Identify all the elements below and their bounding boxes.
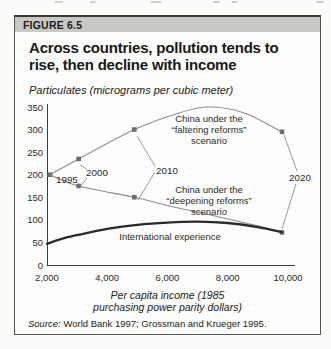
page-crop-artifact: [151, 1, 161, 3]
y-tick-label: 0: [38, 260, 43, 271]
x-tick-label: 2,000: [35, 272, 59, 283]
data-point-marker: [132, 195, 137, 200]
x-axis-label-line2: purchasing power parity dollars): [93, 301, 242, 313]
figure-number: FIGURE 6.5: [23, 19, 82, 31]
y-tick-label: 200: [27, 169, 43, 180]
data-point-marker: [132, 127, 137, 132]
figure-box: FIGURE 6.5 Across countries, pollution t…: [14, 15, 321, 335]
faltering-reforms-label: China under the“faltering reforms”scenar…: [172, 113, 247, 146]
y-tick-label: 250: [27, 147, 43, 158]
year-label-2010: 2010: [156, 165, 178, 176]
year-leader-line: [284, 135, 297, 171]
year-label-2000: 2000: [86, 167, 108, 178]
y-tick-label: 150: [27, 192, 43, 203]
page-crop-artifact: [213, 1, 220, 3]
figure-title-line2: rise, then decline with income: [29, 56, 236, 73]
international-experience-label: International experience: [119, 231, 220, 242]
y-tick-label: 100: [27, 214, 43, 225]
year-leader-line: [282, 184, 296, 229]
figure-subtitle: Particulates (micrograms per cubic meter…: [29, 84, 320, 96]
figure-label-bar: FIGURE 6.5: [15, 17, 320, 32]
page-crop-artifact: [232, 1, 237, 3]
year-label-2020: 2020: [289, 172, 311, 183]
y-tick-label: 300: [27, 124, 43, 135]
year-leader-line: [138, 172, 155, 200]
data-point-marker: [280, 130, 285, 135]
year-leader-line: [137, 136, 155, 166]
x-tick-label: 8,000: [216, 272, 240, 283]
source-text: World Bank 1997; Grossman and Krueger 19…: [63, 318, 266, 329]
y-tick-label: 350: [27, 102, 43, 113]
year-leader-line: [80, 178, 87, 187]
page-crop-artifact: [55, 1, 63, 3]
pollution-income-chart: 0501001502002503003502,0004,0006,0008,00…: [15, 96, 320, 286]
x-tick-label: 10,000: [273, 272, 302, 283]
source-note: Source: World Bank 1997; Grossman and Kr…: [28, 318, 267, 329]
x-tick-label: 6,000: [156, 272, 180, 283]
x-axis-label: Per capita income (1985purchasing power …: [15, 290, 320, 313]
figure-title-line1: Across countries, pollution tends to: [29, 39, 279, 56]
y-tick-label: 50: [32, 237, 43, 248]
data-point-marker: [76, 157, 81, 162]
figure-title: Across countries, pollution tends torise…: [29, 39, 320, 73]
source-prefix: Source:: [28, 318, 61, 329]
page-crop-artifact: [90, 1, 96, 3]
page-crop-artifact: [316, 1, 324, 3]
deepening-reforms-label: China under the“deepening reforms”scenar…: [166, 184, 252, 217]
x-axis-label-line1: Per capita income (1985: [111, 289, 225, 301]
x-tick-label: 4,000: [95, 272, 119, 283]
year-label-1995: 1995: [56, 174, 78, 185]
